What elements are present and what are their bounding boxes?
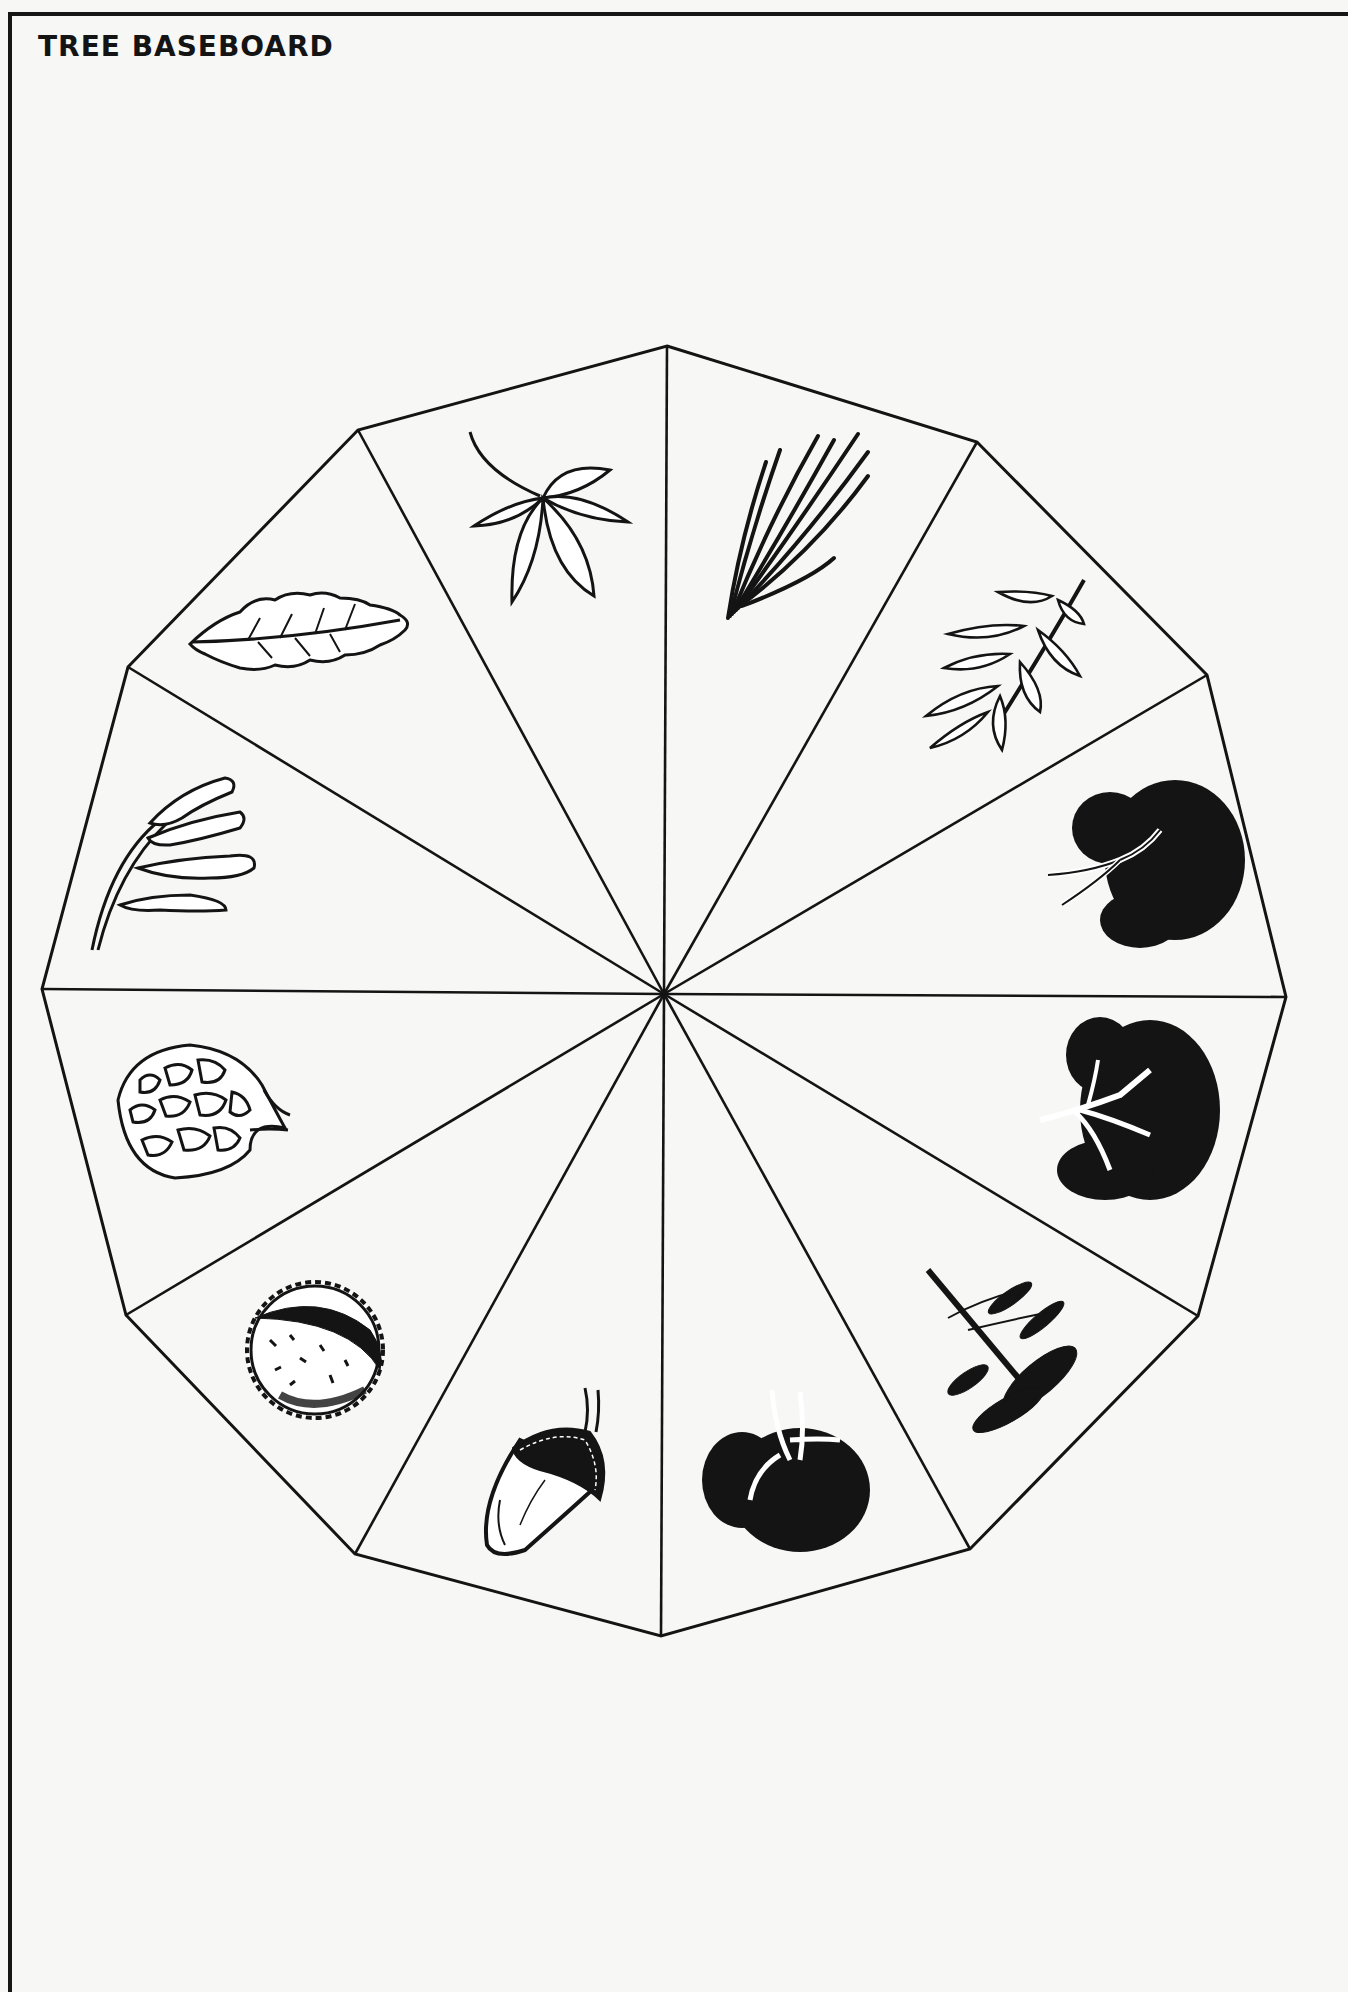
spreading-tree-icon xyxy=(1040,1017,1220,1200)
conifer-tree-icon xyxy=(928,1270,1086,1440)
broadleaf-tree-icon xyxy=(1048,780,1245,948)
acorn-icon xyxy=(486,1388,604,1554)
conker-icon xyxy=(247,1282,383,1418)
board-spokes xyxy=(42,346,1286,1636)
round-tree-icon xyxy=(702,1390,870,1552)
horse-chestnut-leaf-icon xyxy=(470,432,628,602)
pine-needles-icon xyxy=(728,434,868,618)
pine-cone-icon xyxy=(118,1045,290,1178)
oak-leaf-icon xyxy=(190,593,408,669)
ash-keys-icon xyxy=(92,778,255,950)
ash-leaf-icon xyxy=(926,580,1084,750)
